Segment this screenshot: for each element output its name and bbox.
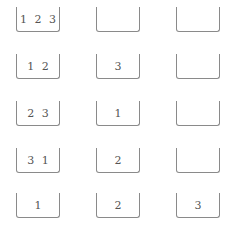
peg-2: 1 [96,101,140,126]
peg-2: 3 [96,54,140,79]
state-row-3: 2 3 1 [0,101,234,126]
peg-discs: 3 1 [25,154,51,167]
peg-discs: 3 [113,60,124,73]
peg-3: 3 [176,193,220,218]
peg-2 [96,7,140,32]
peg-3 [176,148,220,173]
peg-3 [176,54,220,79]
state-row-1: 1 2 3 [0,7,234,32]
peg-discs: 1 2 3 [18,13,58,26]
peg-1: 1 2 [16,54,60,79]
peg-1: 3 1 [16,148,60,173]
peg-2: 2 [96,148,140,173]
state-row-2: 1 2 3 [0,54,234,79]
peg-1: 1 2 3 [16,7,60,32]
peg-discs: 1 2 [25,60,51,73]
peg-1: 1 [16,193,60,218]
peg-discs: 1 [113,107,124,120]
peg-3 [176,7,220,32]
peg-discs: 1 [33,199,44,212]
state-row-4: 3 1 2 [0,148,234,173]
peg-discs: 2 3 [25,107,51,120]
peg-2: 2 [96,193,140,218]
peg-discs: 2 [113,154,124,167]
peg-discs: 2 [113,199,124,212]
peg-3 [176,101,220,126]
state-row-5: 1 2 3 [0,193,234,218]
peg-1: 2 3 [16,101,60,126]
peg-discs: 3 [193,199,204,212]
